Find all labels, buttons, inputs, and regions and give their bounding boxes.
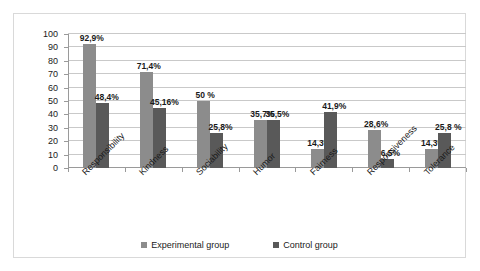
y-axis-tick: [64, 47, 68, 48]
y-axis-tick: [64, 128, 68, 129]
bar-value-label: 35,5%: [265, 110, 289, 119]
bar-group: 14,3%25,8 %: [409, 34, 466, 168]
legend-item-control[interactable]: Control group: [273, 240, 338, 250]
x-axis-tick: [466, 168, 467, 172]
y-axis-tick: [64, 61, 68, 62]
y-axis-tick-label: 80: [48, 56, 58, 65]
y-axis-tick: [64, 114, 68, 115]
category-label: Responsibility: [80, 170, 87, 177]
category-label: Humor: [251, 170, 258, 177]
y-axis-tick: [64, 101, 68, 102]
chart-frame: 0102030405060708090100 92,9%48,4%71,4%45…: [13, 13, 466, 258]
bar-group: 92,9%48,4%: [68, 34, 125, 168]
bar-group: 35,7%35,5%: [239, 34, 296, 168]
bar-groups: 92,9%48,4%71,4%45,16%50 %25,8%35,7%35,5%…: [68, 34, 466, 168]
chart-screenshot: 0102030405060708090100 92,9%48,4%71,4%45…: [0, 0, 480, 271]
y-axis-tick-label: 30: [48, 123, 58, 132]
y-axis-tick-label: 90: [48, 43, 58, 52]
y-axis-tick: [64, 155, 68, 156]
y-axis-tick-label: 10: [48, 150, 58, 159]
y-axis-labels: 0102030405060708090100: [36, 34, 64, 168]
chart-legend: Experimental groupControl group: [14, 240, 465, 250]
y-axis-tick-label: 60: [48, 83, 58, 92]
category-label: Responsiveness: [365, 170, 372, 177]
category-label: Sociability: [194, 170, 201, 177]
y-axis-tick-label: 100: [43, 30, 58, 39]
bar-experimental[interactable]: 71,4%: [140, 72, 153, 168]
y-axis-tick: [64, 141, 68, 142]
bar-value-label: 50 %: [196, 91, 215, 100]
legend-item-experimental[interactable]: Experimental group: [141, 240, 229, 250]
category-label: Tolerance: [422, 170, 429, 177]
y-axis-tick-label: 0: [53, 164, 58, 173]
category-label: Fairness: [308, 170, 315, 177]
bar-group: 14,3%41,9%: [295, 34, 352, 168]
y-axis-tick-label: 50: [48, 97, 58, 106]
legend-swatch-icon: [273, 242, 279, 248]
y-axis-tick: [64, 74, 68, 75]
category-label: Kindness: [137, 170, 144, 177]
bar-group: 71,4%45,16%: [125, 34, 182, 168]
bar-value-label: 48,4%: [95, 93, 119, 102]
bar-value-label: 25,8 %: [435, 123, 461, 132]
legend-swatch-icon: [141, 242, 147, 248]
y-axis-tick: [64, 34, 68, 35]
legend-label: Experimental group: [151, 240, 229, 250]
bar-value-label: 45,16%: [150, 98, 179, 107]
bar-value-label: 25,8%: [208, 123, 232, 132]
bar-value-label: 71,4%: [137, 62, 161, 71]
bar-value-label: 41,9%: [322, 102, 346, 111]
legend-label: Control group: [283, 240, 338, 250]
bar-value-label: 28,6%: [364, 120, 388, 129]
y-axis-tick: [64, 168, 68, 169]
y-axis-tick-label: 70: [48, 70, 58, 79]
y-axis-tick-label: 20: [48, 137, 58, 146]
y-axis-tick-label: 40: [48, 110, 58, 119]
bar-value-label: 92,9%: [80, 34, 104, 43]
y-axis-tick: [64, 88, 68, 89]
bar-experimental[interactable]: 92,9%: [83, 44, 96, 168]
plot-area: 92,9%48,4%71,4%45,16%50 %25,8%35,7%35,5%…: [68, 34, 466, 168]
category-labels: ResponsibilityKindnessSociabilityHumorFa…: [68, 170, 466, 232]
